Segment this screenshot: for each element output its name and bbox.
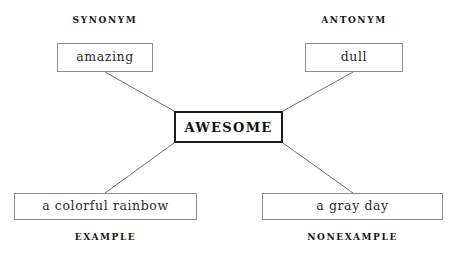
node-text-antonym: dull — [341, 51, 367, 64]
section-label-antonym: ANTONYM — [305, 15, 403, 25]
node-box-nonexample[interactable]: a gray day — [262, 193, 443, 220]
word-map-diagram: SYNONYM amazing ANTONYM dull AWESOME a c… — [0, 0, 461, 257]
node-box-example[interactable]: a colorful rainbow — [14, 193, 197, 220]
center-term-label: AWESOME — [184, 120, 272, 135]
section-label-nonexample: NONEXAMPLE — [262, 232, 443, 242]
connector-nonexample-to-center — [283, 143, 353, 193]
node-text-nonexample: a gray day — [316, 200, 388, 213]
node-box-synonym[interactable]: amazing — [57, 43, 153, 72]
node-box-center-term[interactable]: AWESOME — [174, 111, 283, 143]
node-box-antonym[interactable]: dull — [305, 43, 403, 72]
section-label-synonym: SYNONYM — [57, 15, 153, 25]
node-text-synonym: amazing — [76, 51, 134, 64]
node-text-example: a colorful rainbow — [42, 200, 169, 213]
connector-example-to-center — [105, 143, 174, 193]
connector-antonym-to-center — [283, 72, 353, 111]
connector-synonym-to-center — [105, 72, 174, 111]
section-label-example: EXAMPLE — [14, 232, 197, 242]
